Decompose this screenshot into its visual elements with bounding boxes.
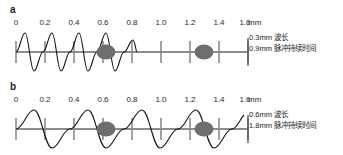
reflector-dot-a-1 bbox=[97, 45, 116, 60]
panel-a-label: a bbox=[10, 4, 16, 15]
legend-wavelength-b: 0.6mm 波长 bbox=[249, 109, 343, 120]
tick-label-0.6: 0.6 bbox=[91, 95, 115, 105]
reflector-dot-a-2 bbox=[195, 45, 214, 60]
tick-label-0.2: 0.2 bbox=[33, 18, 57, 28]
panel-a: a 0 0.2 0.4 0.6 0.8 1.0 1.2 1.4 1.6 mm bbox=[0, 0, 343, 77]
legend-pulse-duration-a: 0.9mm 脉冲持续时间 bbox=[249, 43, 343, 54]
tick-label-1.0: 1.0 bbox=[149, 18, 173, 28]
tick-label-0.8: 0.8 bbox=[120, 18, 144, 28]
legend-wavelength-a: 0.3mm 波长 bbox=[249, 32, 343, 43]
tick-label-1.4: 1.4 bbox=[207, 95, 231, 105]
tick-label-1.2: 1.2 bbox=[178, 95, 202, 105]
tick-label-1.0: 1.0 bbox=[149, 95, 173, 105]
reflector-dot-b-2 bbox=[195, 122, 214, 137]
tick-label-0: 0 bbox=[4, 95, 28, 105]
tick-label-1.2: 1.2 bbox=[178, 18, 202, 28]
tick-label-0.4: 0.4 bbox=[62, 95, 86, 105]
tick-label-0: 0 bbox=[4, 18, 28, 28]
panel-a-legend: 0.3mm 波长 0.9mm 脉冲持续时间 bbox=[249, 32, 343, 54]
panel-b-label: b bbox=[10, 81, 16, 92]
tick-label-0.6: 0.6 bbox=[91, 18, 115, 28]
axis-unit-label-b: mm bbox=[248, 95, 261, 105]
reflector-dot-b-1 bbox=[97, 122, 116, 137]
legend-pulse-duration-b: 1.8mm 脉冲持续时间 bbox=[249, 120, 343, 131]
panel-b-legend: 0.6mm 波长 1.8mm 脉冲持续时间 bbox=[249, 109, 343, 131]
tick-label-0.4: 0.4 bbox=[62, 18, 86, 28]
tick-label-1.4: 1.4 bbox=[207, 18, 231, 28]
ultrasound-wavelength-figure: a 0 0.2 0.4 0.6 0.8 1.0 1.2 1.4 1.6 mm bbox=[0, 0, 343, 155]
tick-label-0.2: 0.2 bbox=[33, 95, 57, 105]
tick-label-0.8: 0.8 bbox=[120, 95, 144, 105]
axis-unit-label-a: mm bbox=[248, 18, 261, 28]
panel-b: b 0 0.2 0.4 0.6 0.8 1.0 1.2 1.4 1.6 mm bbox=[0, 77, 343, 154]
